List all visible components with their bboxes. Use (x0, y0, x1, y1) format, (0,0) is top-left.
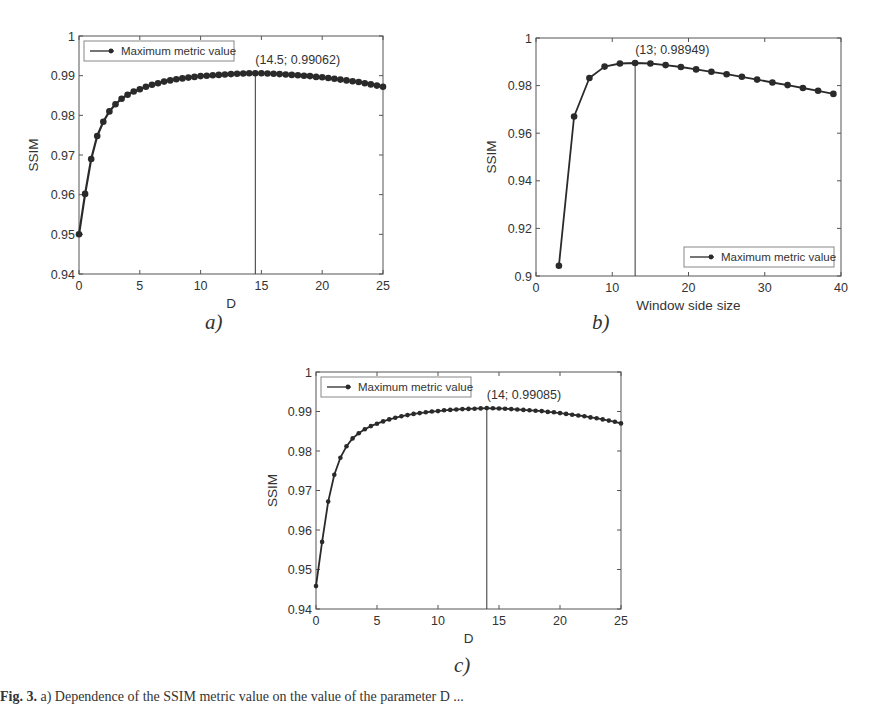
chart-a: a) 05101520250.940.950.960.970.980.991DS… (26, 30, 390, 335)
panel-label-c: c) (454, 653, 470, 677)
y-tick-label: 0.95 (288, 563, 312, 577)
data-point (356, 431, 361, 436)
data-point (124, 91, 131, 98)
data-point (678, 64, 685, 71)
data-point (399, 414, 404, 419)
data-point (570, 412, 575, 417)
x-tick-label: 25 (614, 614, 628, 628)
y-tick-label: 0.92 (508, 222, 532, 236)
y-tick-label: 0.99 (51, 69, 75, 83)
legend-label: Maximum metric value (721, 251, 836, 263)
data-point (497, 406, 502, 411)
y-tick-label: 0.94 (51, 268, 75, 282)
y-axis-label: SSIM (265, 474, 280, 507)
figure-caption: Fig. 3. a) Dependence of the SSIM metric… (0, 689, 873, 705)
data-point (472, 406, 477, 411)
x-axis-label: D (464, 631, 474, 646)
max-annotation: (14.5; 0.99062) (255, 53, 340, 67)
data-point (325, 75, 332, 82)
data-point (380, 84, 387, 91)
y-axis-label: SSIM (484, 140, 499, 173)
data-point (234, 70, 241, 77)
y-tick-label: 0.96 (288, 524, 312, 538)
data-point (76, 231, 83, 238)
data-point (619, 421, 624, 426)
data-point (228, 71, 235, 78)
legend: Maximum metric value (321, 377, 473, 397)
data-point (210, 72, 217, 79)
data-point (222, 71, 229, 78)
y-tick-label: 0.94 (288, 603, 312, 617)
y-tick-label: 0.98 (508, 79, 532, 93)
x-tick-label: 0 (76, 279, 83, 293)
data-point (374, 82, 381, 89)
legend: Maximum metric value (684, 247, 836, 267)
data-point (344, 444, 349, 449)
data-point (558, 411, 563, 416)
data-point (436, 409, 441, 414)
data-point (485, 406, 490, 411)
data-point (161, 78, 168, 85)
data-point (647, 60, 654, 67)
y-tick-label: 1 (68, 30, 75, 44)
data-point (564, 412, 569, 417)
data-point (185, 74, 192, 81)
data-point (137, 86, 144, 93)
data-point (571, 113, 578, 120)
data-point (252, 70, 259, 77)
data-point (203, 72, 210, 79)
panel-label-a: a) (205, 310, 223, 334)
data-point (100, 118, 107, 125)
y-tick-label: 0.94 (508, 174, 532, 188)
data-point (442, 408, 447, 413)
data-point (546, 410, 551, 415)
data-point (320, 540, 325, 545)
x-tick-label: 15 (492, 614, 506, 628)
data-point (503, 406, 508, 411)
data-point (754, 76, 761, 83)
data-point (369, 424, 374, 429)
data-point (88, 156, 95, 163)
legend-label: Maximum metric value (358, 381, 473, 393)
data-point (167, 77, 174, 84)
data-point (693, 66, 700, 73)
y-tick-label: 0.96 (508, 127, 532, 141)
data-point (466, 407, 471, 412)
data-point (594, 416, 599, 421)
data-point (515, 407, 520, 412)
data-point (155, 80, 162, 87)
data-point (130, 88, 137, 95)
max-annotation: (14; 0.99085) (487, 388, 561, 402)
data-point (118, 95, 125, 102)
data-point (582, 414, 587, 419)
legend-marker-icon (109, 49, 114, 54)
data-point (349, 78, 356, 85)
data-point (708, 69, 715, 76)
data-point (246, 70, 253, 77)
data-point (601, 63, 608, 70)
data-point (337, 76, 344, 83)
data-point (295, 72, 302, 79)
x-tick-label: 15 (254, 279, 268, 293)
data-point (362, 80, 369, 87)
data-point (381, 419, 386, 424)
data-point (556, 263, 563, 270)
y-tick-label: 0.99 (288, 405, 312, 419)
data-point (264, 70, 271, 77)
x-axis-label: Window side size (636, 298, 740, 313)
data-point (216, 72, 223, 79)
data-point (815, 88, 822, 95)
data-point (282, 71, 289, 78)
data-point (784, 82, 791, 89)
legend-marker-icon (346, 385, 351, 390)
data-point (491, 406, 496, 411)
x-tick-label: 5 (374, 614, 381, 628)
data-point (613, 420, 618, 425)
data-point (739, 74, 746, 81)
data-point (363, 427, 368, 432)
data-point (617, 60, 624, 67)
data-point (417, 411, 422, 416)
data-point (355, 79, 362, 86)
data-point (527, 408, 532, 413)
